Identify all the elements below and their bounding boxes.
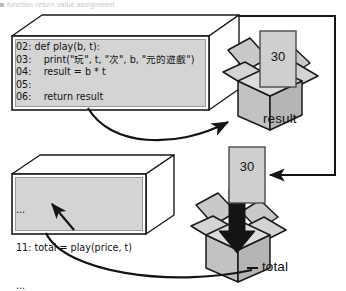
diagram-graphics	[0, 0, 346, 291]
result-value-card	[260, 31, 296, 87]
caller-slab-3d	[12, 155, 174, 234]
total-value-card	[229, 147, 265, 203]
return-to-result-arrow	[88, 108, 228, 140]
function-slab-3d	[12, 15, 239, 110]
diagram-canvas: function return value assignment 02: def…	[0, 0, 346, 291]
